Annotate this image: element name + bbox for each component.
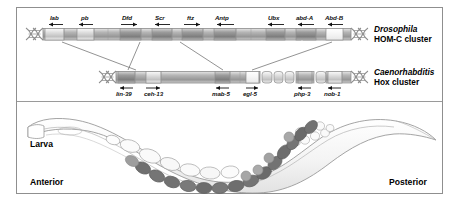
gene-label-php-3: php-3 <box>294 90 310 97</box>
gene-label-abd-a: abd-A <box>296 14 313 21</box>
taxon-label-drosophila: Drosophila HOM-C cluster <box>374 24 432 44</box>
gene-label-ftz: ftz <box>187 14 194 21</box>
gene-label-pb: pb <box>81 14 88 21</box>
gene-label-nob-1: nob-1 <box>324 90 340 97</box>
gene-label-dfd: Dfd <box>122 14 132 21</box>
gene-label-egl-5: egl-5 <box>243 90 257 97</box>
taxon-label-caenorhabditis: Caenorhabditis Hox cluster <box>374 67 434 87</box>
gene-label-lab: lab <box>50 14 59 21</box>
gene-label-mab-5: mab-5 <box>212 90 230 97</box>
gene-label-antp: Antp <box>215 14 229 21</box>
panel-divider <box>17 101 442 102</box>
gene-label-ceh-13: ceh-13 <box>144 90 163 97</box>
taxon-subtitle-hox: Hox cluster <box>374 77 434 87</box>
taxon-name-drosophila: Drosophila <box>374 24 432 34</box>
hox-cluster-figure: lab pb Dfd Scr ftz Antp Ubx abd-A Abd-B … <box>0 0 459 204</box>
taxon-name-caenorhabditis: Caenorhabditis <box>374 67 434 77</box>
posterior-label: Posterior <box>389 177 427 187</box>
gene-label-ubx: Ubx <box>268 14 279 21</box>
gene-label-lin-39: lin-39 <box>116 90 132 97</box>
larva-label: Larva <box>30 139 53 149</box>
gene-label-scr: Scr <box>155 14 165 21</box>
taxon-subtitle-hom-c: HOM-C cluster <box>374 34 432 44</box>
anterior-label: Anterior <box>30 177 63 187</box>
gene-label-abd-b: Abd-B <box>325 14 343 21</box>
